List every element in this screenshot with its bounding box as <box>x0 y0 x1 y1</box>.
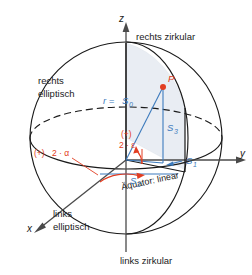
label-s1-subscript: 1 <box>193 161 197 168</box>
label-alpha-sign: (+) <box>34 148 45 158</box>
alpha-leader <box>72 158 98 175</box>
label-s0-subscript: 0 <box>129 101 133 108</box>
s1-arrowhead <box>166 162 174 167</box>
label-top-pole: rechts zirkular <box>136 31 195 42</box>
label-lower-left-1: links <box>53 208 72 219</box>
label-upper-left-1: rechts <box>38 75 64 86</box>
label-alpha: 2 · α <box>52 148 69 158</box>
label-epsilon: 2 · ε <box>119 140 135 150</box>
label-s0-prefix: r = <box>103 95 115 106</box>
label-bottom-pole: links zirkular <box>120 255 172 266</box>
z-axis-label: z <box>118 13 124 24</box>
label-s2-subscript: 2 <box>136 181 141 188</box>
poincare-sphere-svg: z y x rechts zirku <box>0 0 252 275</box>
point-p-marker <box>160 84 166 90</box>
label-s2: S <box>130 175 137 186</box>
label-s1: S <box>186 155 193 166</box>
label-point-p: P <box>168 73 175 84</box>
y-axis-label: y <box>239 148 246 159</box>
label-epsilon-sign: (+) <box>121 129 132 139</box>
x-axis-label: x <box>26 223 33 234</box>
label-s0: S <box>122 95 129 106</box>
label-s3-subscript: 3 <box>174 128 178 135</box>
label-upper-left-2: elliptisch <box>38 88 74 99</box>
label-lower-left-2: elliptisch <box>53 221 89 232</box>
poincare-sphere-figure: z y x rechts zirku <box>0 0 252 275</box>
label-s3: S <box>167 122 174 133</box>
